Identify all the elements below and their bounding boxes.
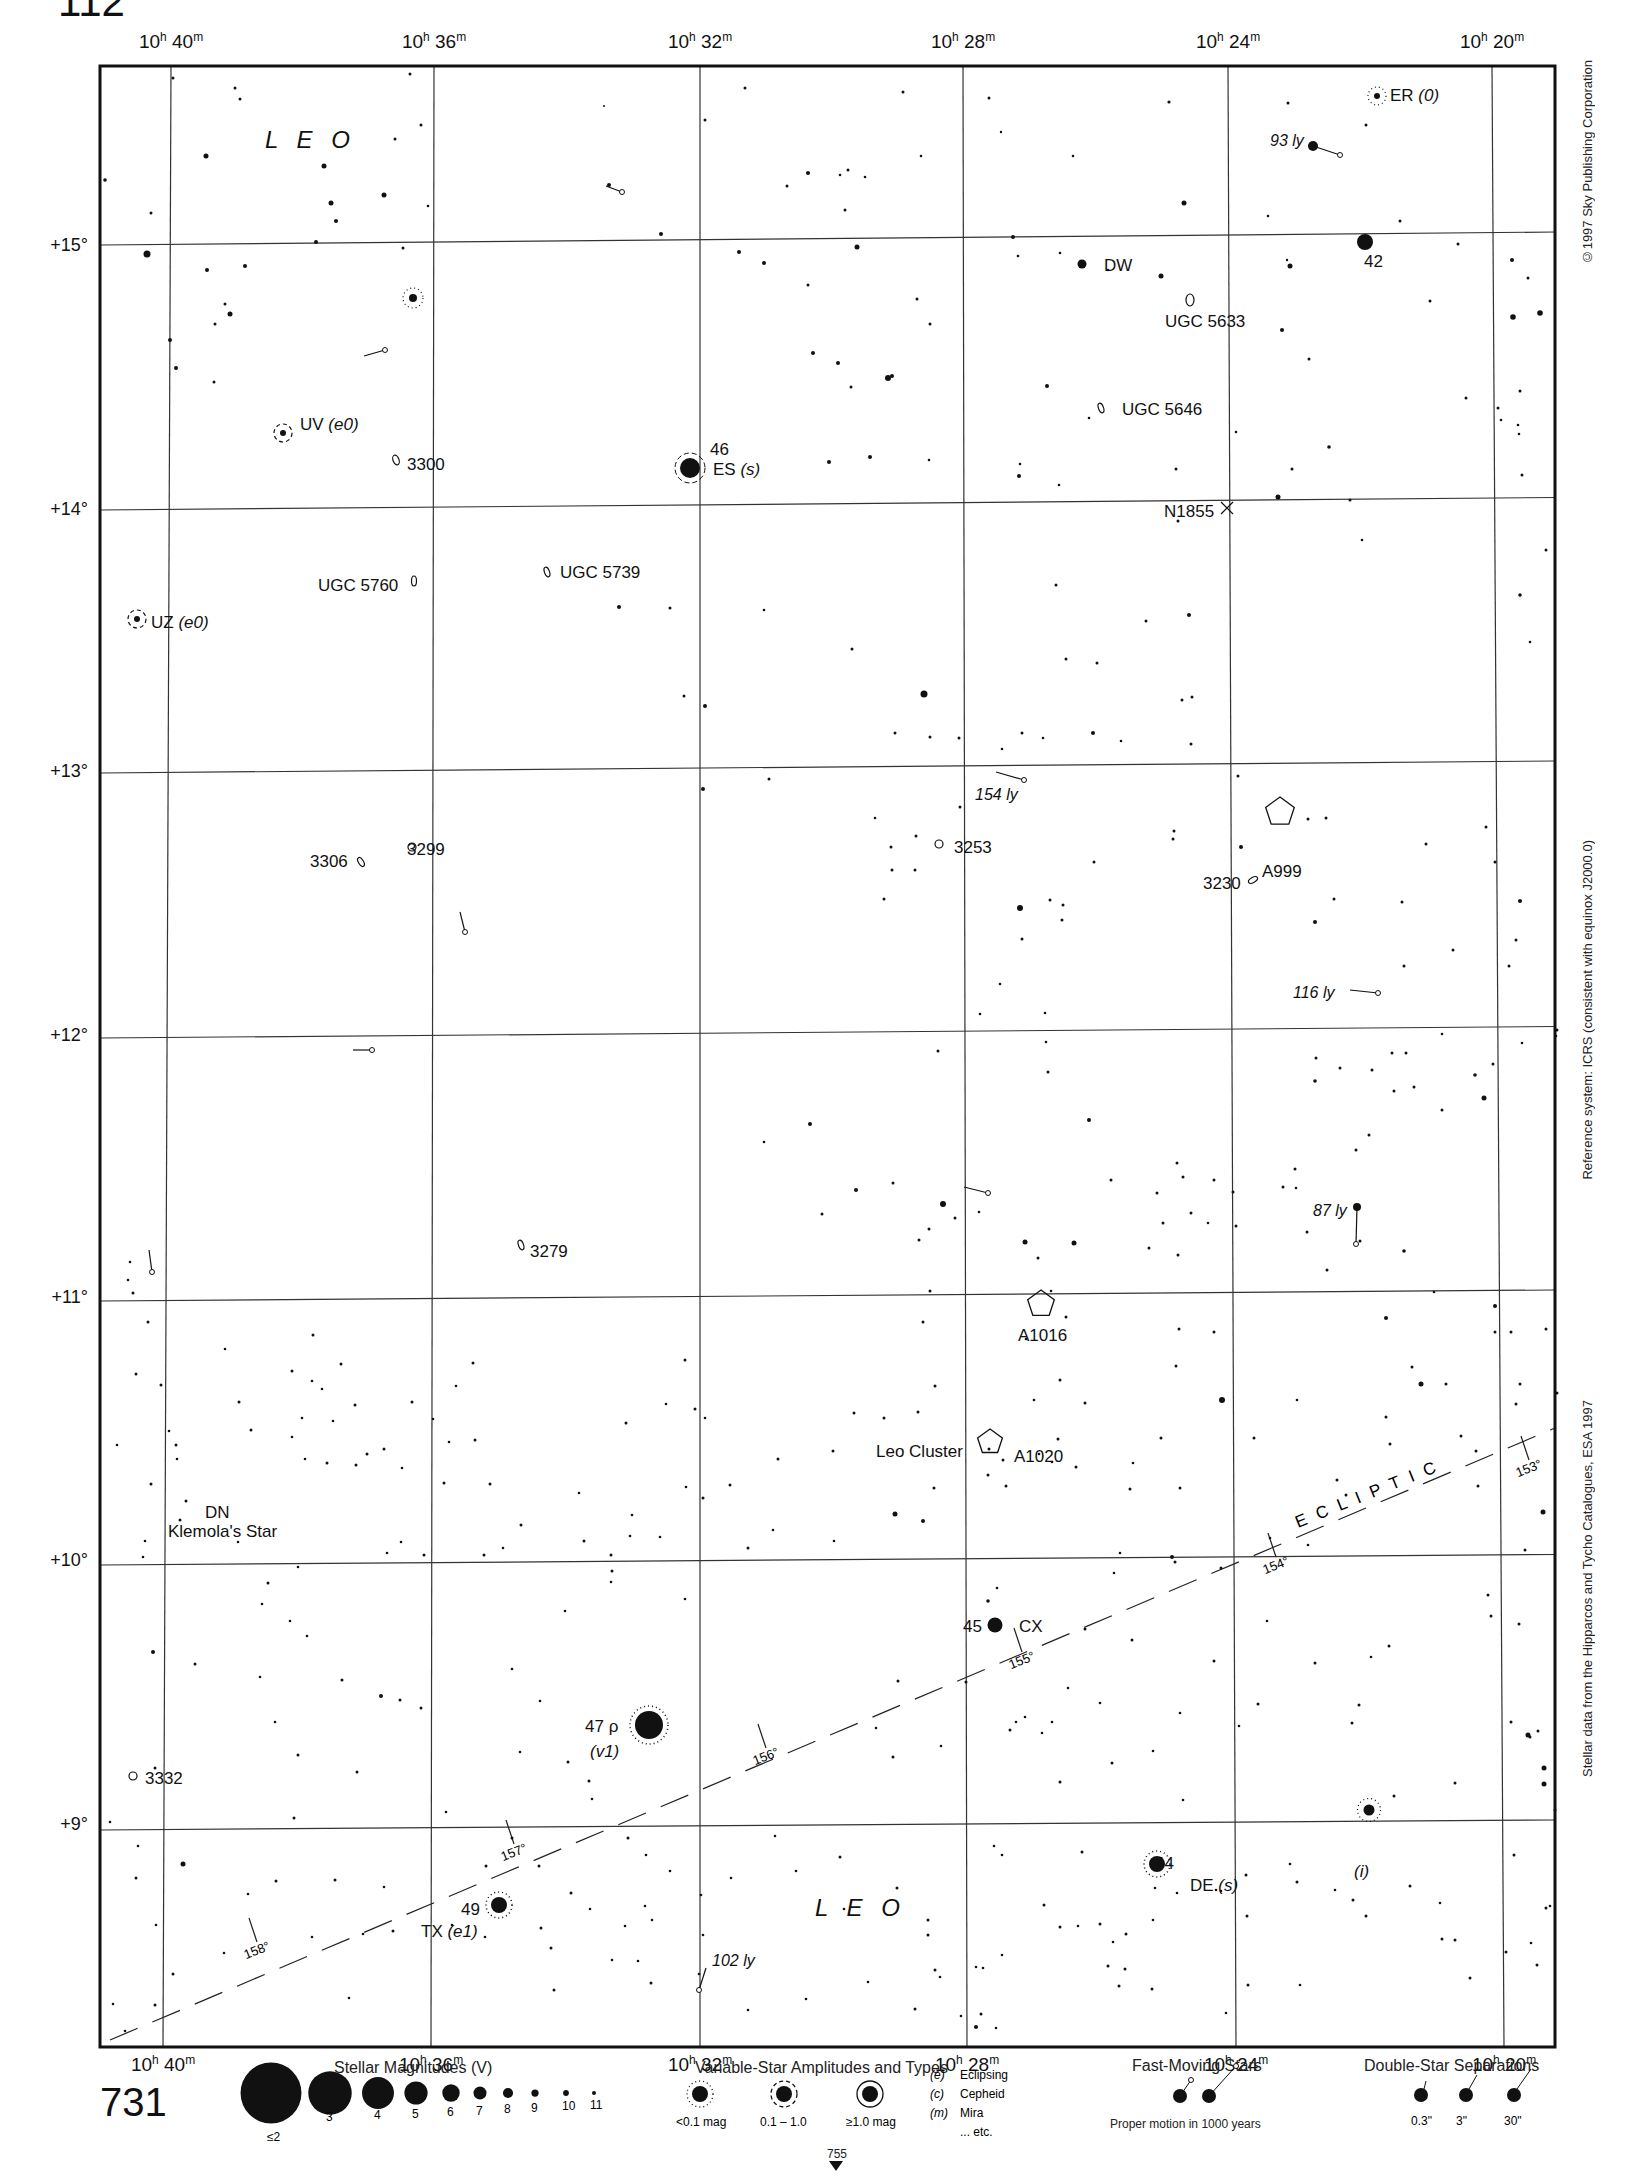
svg-text:10: 10 (562, 2099, 576, 2113)
next-chart-number[interactable]: 755 (827, 2147, 847, 2161)
svg-text:(e): (e) (930, 2068, 945, 2082)
svg-text:Mira: Mira (960, 2106, 984, 2120)
svg-text:0.1 – 1.0: 0.1 – 1.0 (760, 2115, 807, 2129)
svg-text:5: 5 (412, 2107, 419, 2121)
svg-text:0.3": 0.3" (1411, 2114, 1432, 2128)
svg-text:≤2: ≤2 (267, 2130, 281, 2144)
svg-text:3": 3" (1456, 2114, 1467, 2128)
svg-text:11: 11 (590, 2098, 603, 2112)
svg-text:<0.1 mag: <0.1 mag (676, 2115, 726, 2129)
svg-text:7: 7 (476, 2104, 483, 2118)
svg-text:8: 8 (504, 2102, 511, 2116)
svg-text:≥1.0 mag: ≥1.0 mag (846, 2115, 896, 2129)
svg-text:30": 30" (1504, 2114, 1522, 2128)
svg-text:(c): (c) (930, 2087, 944, 2101)
svg-text:3: 3 (326, 2110, 333, 2124)
svg-text:... etc.: ... etc. (960, 2125, 993, 2139)
svg-text:Cepheid: Cepheid (960, 2087, 1005, 2101)
legend-graphics: ≤234567891011<0.1 mag0.1 – 1.0≥1.0 mag(e… (0, 0, 1631, 2181)
svg-text:4: 4 (374, 2108, 381, 2122)
svg-text:Eclipsing: Eclipsing (960, 2068, 1008, 2082)
svg-text:6: 6 (447, 2105, 454, 2119)
svg-text:9: 9 (531, 2101, 538, 2115)
svg-text:(m): (m) (930, 2106, 948, 2120)
next-chart-arrow-icon[interactable] (829, 2161, 843, 2171)
